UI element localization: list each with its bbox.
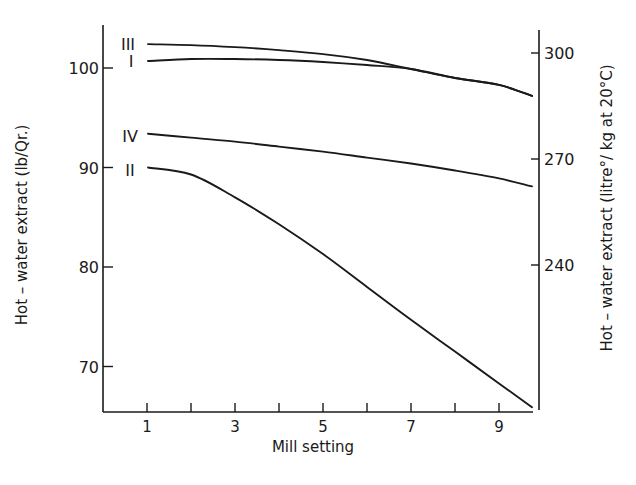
y-right-tick-label: 270 <box>544 150 575 169</box>
curve-i <box>148 59 532 96</box>
x-tick-label: 3 <box>230 418 240 436</box>
curve-labels: IIIIIVII <box>121 35 138 180</box>
curve-ii <box>148 168 532 408</box>
right-y-ticks: 240270300 <box>531 44 575 275</box>
right-y-axis-label: Hot – water extract (litre°/ kg at 20°C) <box>598 64 616 351</box>
y-tick-label: 100 <box>68 59 99 78</box>
x-tick-label: 7 <box>406 418 416 436</box>
curve-iv <box>148 134 532 187</box>
x-tick-label: 1 <box>142 418 152 436</box>
y-tick-label: 70 <box>79 358 99 377</box>
y-right-tick-label: 240 <box>544 256 575 275</box>
y-tick-label: 80 <box>79 258 99 277</box>
x-tick-label: 9 <box>494 418 504 436</box>
x-axis-label: Mill setting <box>272 438 354 456</box>
axes <box>103 25 539 412</box>
curve-iii <box>148 44 532 96</box>
chart: 13579 708090100 240270300 IIIIIVII Mill … <box>0 0 636 485</box>
curves <box>148 44 532 407</box>
x-tick-label: 5 <box>318 418 328 436</box>
curve-label-iv: IV <box>122 127 138 146</box>
left-y-axis-label: Hot – water extract (lb/Qr.) <box>13 125 31 326</box>
left-y-ticks: 708090100 <box>68 59 113 377</box>
x-ticks: 13579 <box>142 403 504 436</box>
y-right-tick-label: 300 <box>544 44 575 63</box>
curve-label-ii: II <box>125 161 134 180</box>
curve-label-i: I <box>129 52 134 71</box>
y-tick-label: 90 <box>79 159 99 178</box>
